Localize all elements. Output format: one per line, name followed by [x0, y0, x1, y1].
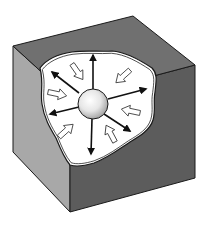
- cube-cavity-diagram: [0, 0, 206, 225]
- diagram-canvas: [0, 0, 206, 225]
- outward-arrow-icon: [91, 119, 92, 154]
- central-sphere: [78, 89, 108, 119]
